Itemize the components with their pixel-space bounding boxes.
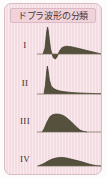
waveform-svg-2 xyxy=(33,64,101,101)
row-label-4: IV xyxy=(15,154,35,164)
doppler-waveform-figure: ドプラ波形の分類 I II xyxy=(0,0,106,178)
waveform-area-2 xyxy=(44,66,101,94)
row-label-1: I xyxy=(15,40,35,50)
waveform-plot-4 xyxy=(33,140,101,175)
figure-panel: ドプラ波形の分類 I II xyxy=(4,3,102,175)
figure-title-box: ドプラ波形の分類 xyxy=(10,8,96,23)
waveform-plot-1 xyxy=(33,26,101,63)
waveform-row-4: IV xyxy=(5,140,101,175)
row-label-2: II xyxy=(15,78,35,88)
waveform-plot-3 xyxy=(33,102,101,139)
waveform-svg-4 xyxy=(33,140,101,175)
page-title: ドプラ波形の分類 xyxy=(18,11,88,21)
waveform-row-1: I xyxy=(5,26,101,63)
waveform-plot-2 xyxy=(33,64,101,101)
waveform-svg-3 xyxy=(33,102,101,139)
row-label-3: III xyxy=(15,116,35,126)
waveform-row-2: II xyxy=(5,64,101,101)
waveform-area-3 xyxy=(42,114,101,132)
waveform-row-3: III xyxy=(5,102,101,139)
waveform-svg-1 xyxy=(33,26,101,63)
